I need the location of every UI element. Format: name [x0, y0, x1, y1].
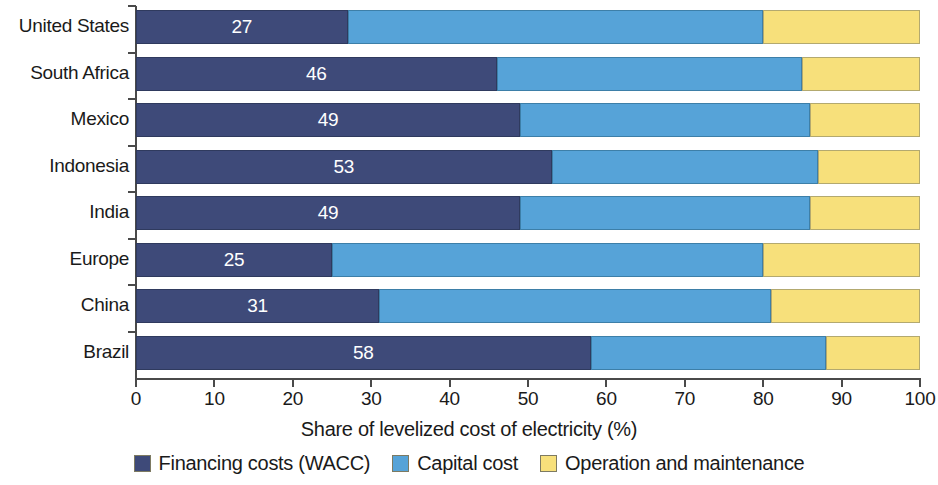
x-tick-label: 80 — [753, 388, 774, 410]
bar-value-label: 27 — [232, 16, 253, 38]
x-tick-label: 10 — [204, 388, 225, 410]
bar-segment-capital — [332, 243, 763, 277]
bar-row: 31 — [0, 289, 938, 323]
y-tick — [128, 191, 136, 193]
legend-label: Capital cost — [417, 452, 518, 475]
legend-swatch-icon — [134, 455, 151, 472]
bar-segment-capital — [591, 336, 826, 370]
bar-row: 27 — [0, 10, 938, 44]
bar-segment-om — [802, 57, 920, 91]
legend-label: Financing costs (WACC) — [159, 452, 371, 475]
y-tick — [128, 98, 136, 100]
bar-row: 25 — [0, 243, 938, 277]
legend-swatch-icon — [392, 455, 409, 472]
x-tick-label: 70 — [675, 388, 696, 410]
bar-row: 58 — [0, 336, 938, 370]
bar-segment-om — [771, 289, 920, 323]
bar-row: 49 — [0, 196, 938, 230]
chart-legend: Financing costs (WACC)Capital costOperat… — [0, 452, 938, 475]
x-tick — [841, 380, 843, 387]
legend-label: Operation and maintenance — [565, 452, 804, 475]
x-tick — [527, 380, 529, 387]
x-tick-label: 0 — [131, 388, 141, 410]
bar-row: 49 — [0, 103, 938, 137]
x-tick-label: 50 — [518, 388, 539, 410]
bar-row: 46 — [0, 57, 938, 91]
y-tick — [128, 238, 136, 240]
bar-segment-capital — [520, 103, 810, 137]
bar-segment-capital — [497, 57, 803, 91]
bar-value-label: 46 — [306, 63, 327, 85]
x-tick-label: 60 — [596, 388, 617, 410]
y-tick — [128, 331, 136, 333]
y-tick — [128, 52, 136, 54]
bar-segment-om — [763, 10, 920, 44]
bar-segment-om — [810, 196, 920, 230]
x-tick-label: 100 — [905, 388, 936, 410]
x-tick — [449, 380, 451, 387]
x-tick — [919, 380, 921, 387]
x-tick — [684, 380, 686, 387]
bar-segment-capital — [552, 150, 819, 184]
x-tick — [292, 380, 294, 387]
legend-item[interactable]: Financing costs (WACC) — [134, 452, 371, 475]
bar-value-label: 31 — [247, 295, 268, 317]
x-tick — [135, 380, 137, 387]
bar-value-label: 49 — [318, 109, 339, 131]
bar-segment-om — [826, 336, 920, 370]
bar-value-label: 58 — [353, 342, 374, 364]
y-tick — [128, 5, 136, 7]
x-tick-label: 40 — [439, 388, 460, 410]
x-tick — [762, 380, 764, 387]
x-tick — [370, 380, 372, 387]
x-tick-label: 90 — [831, 388, 852, 410]
y-tick — [128, 145, 136, 147]
bar-segment-om — [818, 150, 920, 184]
x-tick-label: 20 — [283, 388, 304, 410]
y-tick — [128, 284, 136, 286]
bar-value-label: 53 — [333, 156, 354, 178]
bar-row: 53 — [0, 150, 938, 184]
stacked-bar-chart: United StatesSouth AfricaMexicoIndonesia… — [0, 0, 938, 485]
legend-item[interactable]: Operation and maintenance — [540, 452, 804, 475]
bar-segment-capital — [379, 289, 771, 323]
x-tick — [605, 380, 607, 387]
bar-segment-capital — [520, 196, 810, 230]
legend-swatch-icon — [540, 455, 557, 472]
bar-segment-capital — [348, 10, 764, 44]
legend-item[interactable]: Capital cost — [392, 452, 518, 475]
bar-value-label: 49 — [318, 202, 339, 224]
bar-segment-om — [763, 243, 920, 277]
bar-value-label: 25 — [224, 249, 245, 271]
x-axis-title: Share of levelized cost of electricity (… — [0, 418, 938, 441]
x-tick — [213, 380, 215, 387]
bar-segment-om — [810, 103, 920, 137]
x-tick-label: 30 — [361, 388, 382, 410]
